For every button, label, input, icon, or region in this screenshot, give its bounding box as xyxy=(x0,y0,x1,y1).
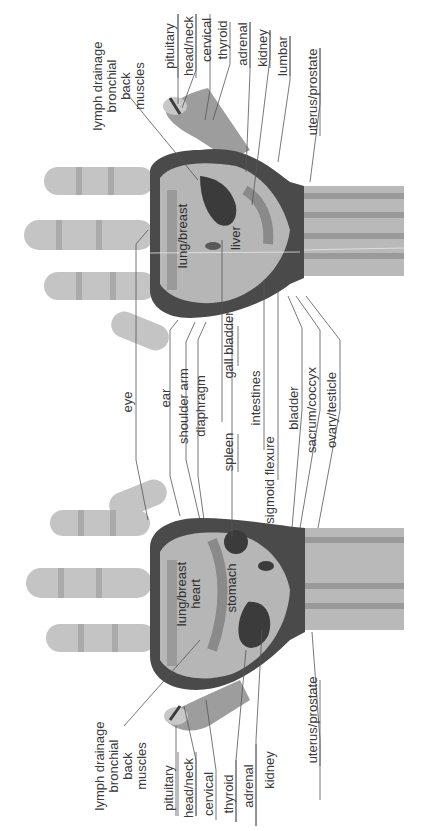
label-adrenal: adrenal xyxy=(235,22,250,65)
label-eye: eye xyxy=(120,392,135,413)
label-muscles-bottom: muscles xyxy=(134,742,149,790)
label-cervical: cervical xyxy=(199,18,214,62)
label-lung-breast: lung/breast xyxy=(175,203,190,268)
label-gall-bladder: gall bladder xyxy=(221,311,236,379)
label-head-neck-bottom: head/neck xyxy=(181,758,196,818)
label-bronchial-bottom: bronchial xyxy=(106,740,121,793)
label-intestines: intestines xyxy=(248,370,263,425)
top-hand-forearm xyxy=(300,186,404,276)
label-thyroid-bottom: thyroid xyxy=(221,774,236,813)
label-sacrum-coccyx: sacrum/coccyx xyxy=(304,367,319,453)
label-head-neck: head/neck xyxy=(181,16,196,76)
label-lung-breast-bottom: lung/breast xyxy=(174,561,189,626)
top-gall-bladder-zone xyxy=(205,242,221,250)
label-pituitary: pituitary xyxy=(162,23,177,69)
bottom-hand-fingers xyxy=(26,476,171,652)
label-pituitary-bottom: pituitary xyxy=(161,765,176,811)
reflexology-diagram: lymph drainage bronchial back muscles pi… xyxy=(0,0,426,831)
label-sigmoid-flexure: sigmoid flexure xyxy=(262,436,277,523)
label-muscles: muscles xyxy=(132,62,147,110)
label-diaphragm: diaphragm xyxy=(193,375,208,436)
label-uterus-prostate-bottom: uterus/prostate xyxy=(305,677,320,764)
label-cervical-bottom: cervical xyxy=(201,772,216,816)
label-heart: heart xyxy=(188,579,203,609)
label-lymph-drainage: lymph drainage xyxy=(90,42,105,131)
label-uterus-prostate: uterus/prostate xyxy=(305,49,320,136)
bottom-hand xyxy=(26,476,404,731)
label-kidney-bottom: kidney xyxy=(262,751,277,789)
label-adrenal-bottom: adrenal xyxy=(241,764,256,807)
label-ovary-testicle: ovary/testicle xyxy=(324,372,339,448)
label-ear: ear xyxy=(158,388,173,407)
label-spleen: spleen xyxy=(221,433,236,471)
label-back: back xyxy=(118,72,133,100)
label-bronchial: bronchial xyxy=(104,60,119,113)
label-shoulder-arm: shoulder arm xyxy=(176,368,191,444)
label-liver: liver xyxy=(228,225,243,250)
label-lymph-drainage-bottom: lymph drainage xyxy=(92,722,107,811)
bottom-sigmoid-zone xyxy=(258,561,274,571)
bottom-hand-forearm xyxy=(305,528,404,630)
bottom-spleen-zone xyxy=(224,530,248,554)
label-bladder: bladder xyxy=(286,386,301,430)
top-hand xyxy=(24,88,404,354)
label-back-bottom: back xyxy=(120,752,135,780)
label-kidney: kidney xyxy=(255,29,270,67)
label-thyroid: thyroid xyxy=(215,20,230,59)
label-stomach: stomach xyxy=(224,563,239,612)
label-lumbar: lumbar xyxy=(275,35,290,75)
